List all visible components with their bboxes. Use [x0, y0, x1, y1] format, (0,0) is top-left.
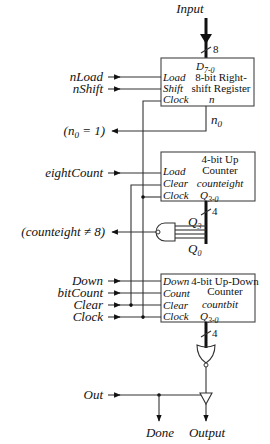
- datapath-diagram: Input 8 D7-0 Load Shift Clock 8-bit Righ…: [0, 0, 270, 444]
- done-label: Done: [145, 425, 174, 440]
- counteight-name: counteight: [197, 177, 244, 189]
- input-label: Input: [175, 1, 204, 16]
- countbit-bus-width: 4: [212, 327, 218, 339]
- counteight-title-2: Counter: [202, 164, 238, 176]
- counteight-port-clock: Clock: [163, 189, 190, 201]
- counteight-port-load: Load: [162, 165, 186, 177]
- register-title-2: shift Register: [192, 82, 251, 94]
- nshift-label: nShift: [73, 81, 104, 96]
- tristate-buffer-icon: [200, 393, 212, 404]
- output-label: Output: [189, 425, 226, 440]
- junction-dot: [141, 195, 145, 199]
- q0-label: Q0: [188, 241, 201, 258]
- out-label: Out: [84, 387, 104, 402]
- countbit-title-2: Counter: [207, 285, 243, 297]
- countbit-name: countbit: [202, 298, 239, 310]
- countbit-port-count: Count: [163, 287, 191, 299]
- q3-label: Q3: [188, 214, 201, 231]
- register-name: n: [209, 93, 215, 105]
- counteight-port-clear: Clear: [163, 177, 189, 189]
- register-port-clock: Clock: [163, 93, 190, 105]
- clock-bus-wire: [143, 101, 161, 319]
- countbit-port-down: Down: [162, 275, 190, 287]
- n0-wire: [112, 106, 206, 131]
- clear-bus-wire: [131, 185, 161, 307]
- counteight-bus-width: 4: [212, 205, 218, 217]
- eightcount-label: eightCount: [45, 165, 103, 180]
- junction-dot: [141, 315, 145, 319]
- input-width-label: 8: [213, 43, 219, 55]
- clock-label: Clock: [73, 309, 104, 324]
- junction-dot: [129, 303, 133, 307]
- n0-eq-1-label: (n0 = 1): [64, 123, 105, 140]
- countbit-port-clock: Clock: [163, 310, 190, 322]
- counteight-ne-8-label: (counteight ≠ 8): [21, 224, 105, 239]
- n0-label: n0: [211, 112, 223, 129]
- input-arrow-icon: [200, 34, 212, 44]
